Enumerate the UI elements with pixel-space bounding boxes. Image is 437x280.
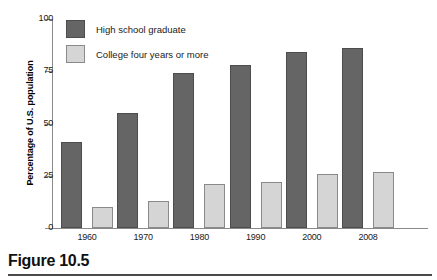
y-tick-label: 0 <box>23 223 53 232</box>
bar-1980-college-four-years-or-more <box>204 184 225 228</box>
x-tick-label-1970: 1970 <box>113 232 173 242</box>
x-tick-label-1980: 1980 <box>169 232 229 242</box>
legend-item-high-school-graduate: High school graduate <box>66 20 266 40</box>
legend-label: College four years or more <box>96 49 208 60</box>
y-tick-0: 0 <box>0 228 53 229</box>
bar-1970-college-four-years-or-more <box>148 201 169 228</box>
bar-1960-high-school-graduate <box>61 142 82 228</box>
bar-2008-high-school-graduate <box>342 48 363 228</box>
bar-1970-high-school-graduate <box>117 113 138 228</box>
bar-2008-college-four-years-or-more <box>373 172 394 228</box>
bar-chart: 0255075100 Percentage of U.S. population… <box>0 0 437 246</box>
x-tick-label-2000: 2000 <box>282 232 342 242</box>
legend-label: High school graduate <box>96 24 186 35</box>
bar-2000-college-four-years-or-more <box>317 174 338 228</box>
legend-swatch-light-icon <box>66 45 85 63</box>
figure-caption: Figure 10.5 <box>8 252 89 270</box>
y-tick-100: 100 <box>0 19 53 20</box>
y-axis-title: Percentage of U.S. population <box>25 38 35 208</box>
bar-1990-high-school-graduate <box>230 65 251 228</box>
bar-2000-high-school-graduate <box>286 52 307 228</box>
legend-item-college-four-years-or-more: College four years or more <box>66 45 266 65</box>
x-tick-label-1960: 1960 <box>57 232 117 242</box>
bar-1980-high-school-graduate <box>173 73 194 228</box>
bar-1960-college-four-years-or-more <box>92 207 113 228</box>
x-tick-label-2008: 2008 <box>338 232 398 242</box>
y-tick-label: 100 <box>23 14 53 23</box>
bar-1990-college-four-years-or-more <box>261 182 282 228</box>
legend-swatch-dark-icon <box>66 20 85 38</box>
caption-divider <box>8 274 432 276</box>
chart-legend: High school graduate College four years … <box>66 20 266 70</box>
figure-container: 0255075100 Percentage of U.S. population… <box>0 0 437 280</box>
x-axis-line <box>52 228 428 229</box>
x-tick-label-1990: 1990 <box>226 232 286 242</box>
